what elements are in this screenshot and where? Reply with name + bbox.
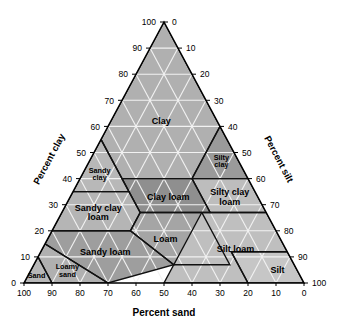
region-label-text-loamy-sand: sand — [59, 270, 76, 279]
region-label-silt: Silt — [270, 265, 284, 275]
region-label-text-silt-loam: Silt loam — [217, 244, 255, 254]
region-label-text-silty-clay: clay — [214, 160, 229, 169]
tick-sand-20: 20 — [243, 288, 253, 298]
tick-clay-60: 60 — [91, 122, 101, 132]
tick-clay-70: 70 — [105, 96, 115, 106]
ternary-diagram-svg: 1009080706050403020100010203040506070809… — [0, 0, 340, 324]
tick-sand-80: 80 — [75, 288, 85, 298]
region-label-text-clay: Clay — [152, 116, 171, 126]
tick-silt-40: 40 — [228, 122, 238, 132]
tick-silt-90: 90 — [298, 252, 308, 262]
region-label-text-sandy-clay: clay — [92, 173, 107, 182]
region-label-text-sandy-clay-loam: Sandy clay — [75, 203, 122, 213]
tick-silt-50: 50 — [242, 148, 252, 158]
tick-clay-10: 10 — [21, 252, 31, 262]
tick-sand-50: 50 — [159, 288, 169, 298]
region-label-text-silt: Silt — [270, 265, 284, 275]
tick-clay-90: 90 — [133, 43, 143, 53]
tick-silt-20: 20 — [200, 69, 210, 79]
region-label-text-silty-clay-loam: loam — [219, 197, 240, 207]
tick-sand-10: 10 — [271, 288, 281, 298]
axis-title-bottom: Percent sand — [133, 307, 196, 318]
tick-silt-60: 60 — [256, 174, 266, 184]
tick-silt-70: 70 — [270, 200, 280, 210]
tick-clay-20: 20 — [35, 226, 45, 236]
tick-sand-70: 70 — [103, 288, 113, 298]
tick-sand-40: 40 — [187, 288, 197, 298]
tick-clay-30: 30 — [49, 200, 59, 210]
region-label-sand: Sand — [28, 271, 46, 280]
tick-clay-40: 40 — [63, 174, 73, 184]
tick-silt-0: 0 — [172, 17, 177, 27]
region-label-clay: Clay — [152, 116, 171, 126]
region-label-loam: Loam — [153, 234, 177, 244]
region-label-text-sand: Sand — [28, 271, 46, 280]
tick-sand-0: 0 — [302, 288, 307, 298]
tick-sand-60: 60 — [131, 288, 141, 298]
region-label-silt-loam: Silt loam — [217, 244, 255, 254]
soil-texture-triangle-figure: 1009080706050403020100010203040506070809… — [0, 0, 340, 324]
tick-silt-100: 100 — [312, 278, 326, 288]
tick-clay-80: 80 — [119, 69, 129, 79]
region-label-clay-loam: Clay loam — [147, 192, 190, 202]
tick-sand-30: 30 — [215, 288, 225, 298]
tick-silt-10: 10 — [186, 43, 196, 53]
region-label-text-loam: Loam — [153, 234, 177, 244]
region-label-silty-clay: Siltyclay — [214, 153, 230, 170]
region-label-text-silty-clay-loam: Silty clay — [210, 187, 249, 197]
region-label-text-clay-loam: Clay loam — [147, 192, 190, 202]
region-label-text-sandy-clay-loam: loam — [88, 212, 109, 222]
tick-silt-30: 30 — [214, 96, 224, 106]
tick-clay-0: 0 — [11, 278, 16, 288]
region-label-text-sandy-loam: Sandy loam — [80, 247, 131, 257]
region-label-sandy-loam: Sandy loam — [80, 247, 131, 257]
tick-sand-90: 90 — [47, 288, 57, 298]
tick-clay-50: 50 — [77, 148, 87, 158]
tick-clay-100: 100 — [142, 17, 156, 27]
tick-silt-80: 80 — [284, 226, 294, 236]
tick-sand-100: 100 — [17, 288, 31, 298]
